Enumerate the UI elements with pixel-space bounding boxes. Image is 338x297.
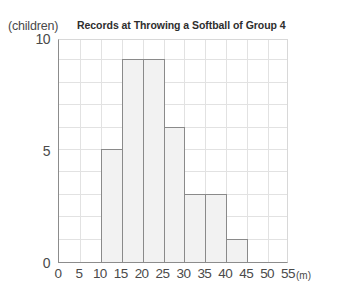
x-axis-tick-label: 5 (75, 266, 82, 281)
histogram-chart: (children) Records at Throwing a Softbal… (0, 0, 338, 297)
x-axis-unit-label: (m) (296, 270, 311, 281)
x-axis-tick-label: 15 (114, 266, 128, 281)
histogram-bar (122, 59, 144, 262)
y-axis-unit-label: (children) (8, 19, 58, 33)
histogram-bar (205, 194, 227, 262)
x-axis-tick-label: 50 (260, 266, 274, 281)
y-axis-tick-labels: 0510 (0, 39, 54, 263)
x-axis-tick-label: 55 (281, 266, 295, 281)
histogram-bar (184, 194, 206, 262)
x-axis-tick-label: 40 (218, 266, 232, 281)
x-axis-tick-label: 30 (177, 266, 191, 281)
bar-series (59, 40, 287, 262)
histogram-bar (164, 127, 186, 262)
histogram-bar (226, 239, 248, 262)
histogram-bar (143, 59, 165, 262)
x-axis-tick-label: 10 (93, 266, 107, 281)
chart-title: Records at Throwing a Softball of Group … (77, 19, 286, 31)
x-axis-tick-labels: 0510152025303540455055 (58, 266, 288, 286)
plot-area (58, 39, 288, 263)
histogram-bar (101, 149, 123, 262)
y-axis-tick-label: 0 (43, 255, 50, 271)
x-axis-tick-label: 25 (156, 266, 170, 281)
x-axis-tick-label: 20 (135, 266, 149, 281)
x-axis-tick-label: 0 (55, 266, 62, 281)
x-axis-tick-label: 35 (197, 266, 211, 281)
y-axis-tick-label: 10 (35, 31, 50, 47)
y-axis-tick-label: 5 (43, 143, 50, 159)
x-axis-tick-label: 45 (239, 266, 253, 281)
